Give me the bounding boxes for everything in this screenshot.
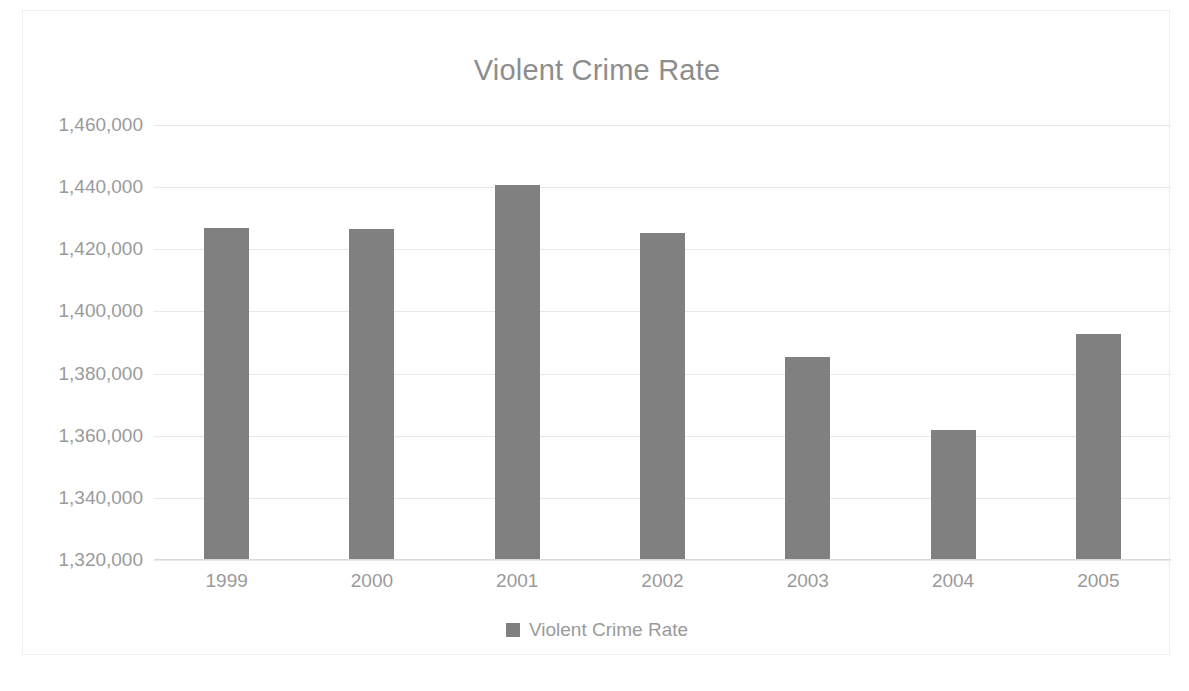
bar-2000[interactable] (349, 229, 394, 559)
y-tick-label: 1,340,000 (23, 487, 143, 509)
y-tick-label: 1,360,000 (23, 425, 143, 447)
bar-2003[interactable] (785, 357, 830, 559)
gridline (154, 560, 1171, 561)
gridline (154, 187, 1171, 188)
y-tick-label: 1,380,000 (23, 363, 143, 385)
bar-2004[interactable] (931, 430, 976, 559)
gridline (154, 125, 1171, 126)
x-tick-label-2002: 2002 (603, 570, 723, 592)
plot-area (154, 125, 1171, 560)
chart-container: Violent Crime Rate 1,460,0001,440,0001,4… (22, 10, 1170, 655)
x-tick-label-1999: 1999 (167, 570, 287, 592)
y-axis: 1,460,0001,440,0001,420,0001,400,0001,38… (23, 125, 143, 560)
bar-2001[interactable] (495, 185, 540, 559)
legend-label: Violent Crime Rate (529, 619, 688, 641)
x-tick-label-2001: 2001 (457, 570, 577, 592)
x-axis: 1999200020012002200320042005 (154, 570, 1171, 602)
y-tick-label: 1,440,000 (23, 176, 143, 198)
legend-swatch-icon (506, 623, 520, 637)
x-tick-label-2000: 2000 (312, 570, 432, 592)
bar-2002[interactable] (640, 233, 685, 559)
chart-legend: Violent Crime Rate (23, 619, 1171, 641)
y-tick-label: 1,400,000 (23, 300, 143, 322)
x-tick-label-2004: 2004 (893, 570, 1013, 592)
y-tick-label: 1,460,000 (23, 114, 143, 136)
bar-2005[interactable] (1076, 334, 1121, 559)
chart-title: Violent Crime Rate (23, 54, 1171, 87)
x-tick-label-2003: 2003 (748, 570, 868, 592)
bar-1999[interactable] (204, 228, 249, 559)
y-tick-label: 1,320,000 (23, 549, 143, 571)
x-tick-label-2005: 2005 (1038, 570, 1158, 592)
y-tick-label: 1,420,000 (23, 238, 143, 260)
